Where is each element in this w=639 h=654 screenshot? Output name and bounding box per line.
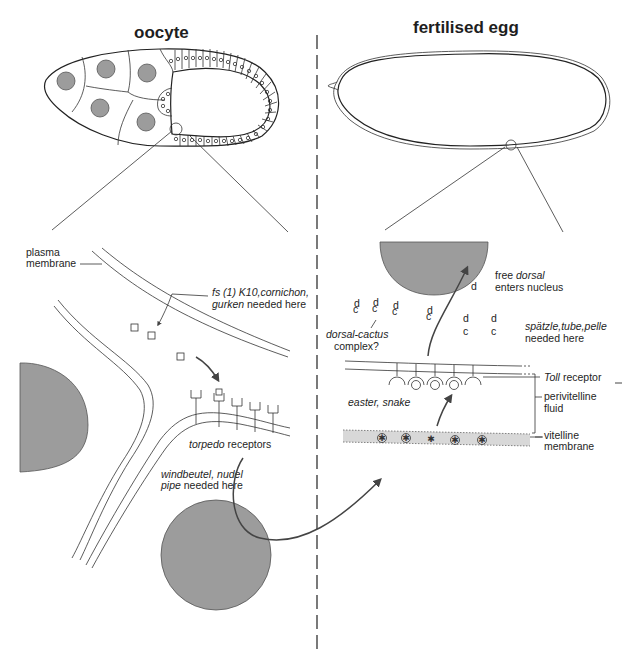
torpedo-receptors: [191, 389, 278, 433]
nurse-cell-nucleus-partial: [20, 363, 88, 472]
svg-text:c: c: [491, 325, 496, 337]
dorsal-cactus-label: dorsal-cactus: [326, 328, 389, 340]
fertilised-egg-title: fertilised egg: [413, 18, 519, 37]
svg-text:c: c: [426, 310, 431, 322]
follicle-cell-nucleus: [161, 500, 271, 610]
spatzle-tube-pelle-label: spätzle,tube,pelle: [525, 320, 607, 332]
svg-text:c: c: [372, 302, 377, 314]
svg-text:✱: ✱: [378, 433, 386, 443]
svg-text:pipe needed here: pipe needed here: [160, 479, 243, 491]
nurse-nucleus: [137, 113, 155, 131]
svg-text:complex?: complex?: [334, 340, 379, 352]
toll-receptor-label: Toll receptor: [544, 371, 602, 383]
svg-text:membrane: membrane: [544, 440, 594, 452]
fertilised-egg-drawing: [328, 51, 610, 232]
svg-text:enters nucleus: enters nucleus: [495, 281, 563, 293]
svg-text:membrane: membrane: [26, 257, 76, 269]
svg-text:✱: ✱: [402, 433, 410, 443]
svg-text:c: c: [353, 303, 358, 315]
svg-text:needed here: needed here: [525, 332, 584, 344]
svg-text:c: c: [392, 305, 397, 317]
easter-snake-label: easter, snake: [348, 396, 411, 408]
nurse-nucleus: [57, 72, 75, 90]
svg-text:✱: ✱: [427, 434, 435, 444]
perivitelline-fluid-label: perivitelline: [544, 390, 597, 402]
diagram-canvas: oocyte: [0, 0, 639, 654]
nurse-nucleus: [97, 60, 115, 78]
oocyte-title: oocyte: [134, 23, 189, 42]
svg-text:✱: ✱: [451, 435, 459, 445]
torpedo-receptors-label: torpedo receptors: [189, 438, 271, 450]
egg-plasma-membrane: [345, 361, 530, 374]
free-dorsal-label: free dorsal: [495, 269, 545, 281]
vitelline-membrane: ✱✱ ✱✱✱: [343, 430, 530, 446]
svg-text:✱: ✱: [478, 435, 486, 445]
toll-receptors: [389, 363, 481, 390]
k10-cornichon-gurken-label: fs (1) K10,cornichon,: [212, 286, 309, 298]
egg-chamber-drawing: [45, 47, 288, 232]
nurse-nucleus: [138, 64, 156, 82]
svg-text:fluid: fluid: [544, 402, 563, 414]
svg-text:c: c: [463, 325, 468, 337]
svg-text:d: d: [471, 280, 477, 292]
svg-text:d: d: [463, 312, 469, 324]
gurken-molecules: [131, 324, 184, 360]
svg-text:gurken needed here: gurken needed here: [212, 298, 306, 310]
nurse-nucleus: [91, 99, 109, 117]
svg-text:d: d: [491, 312, 497, 324]
